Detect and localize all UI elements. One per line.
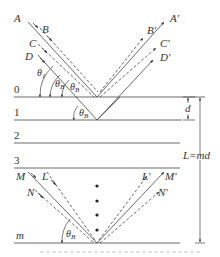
theta-B-label-1: θB <box>55 78 65 91</box>
incident-rays-bottom <box>28 172 97 243</box>
reflected-rays-bottom <box>97 172 164 243</box>
ray-L-label: L <box>41 170 48 182</box>
bragg-diffraction-diagram: 0 1 2 3 m A B C D A' B' C' D' θ1 θB θB θ… <box>0 0 220 257</box>
ray-N-prime-label: N' <box>157 186 168 198</box>
ray-A-label: A <box>13 12 21 24</box>
plane-3-label: 3 <box>14 154 20 166</box>
plane-1-label: 1 <box>14 106 20 118</box>
ray-C-prime-label: C' <box>160 37 170 49</box>
plane-0-label: 0 <box>14 83 20 95</box>
ray-M-prime-label: M' <box>164 170 177 182</box>
ray-N-label: N <box>26 186 35 198</box>
ray-L-prime-label: L' <box>141 170 151 182</box>
ellipsis-dots <box>95 184 98 231</box>
total-thickness-dimension <box>195 98 205 243</box>
theta-B-label-bottom: θB <box>66 228 76 241</box>
theta-1-label: θ1 <box>37 67 45 80</box>
ray-C-label: C <box>29 37 37 49</box>
refracted-ray <box>97 97 120 120</box>
ray-D-label: D <box>24 50 33 62</box>
ray-D-prime-label: D' <box>159 51 171 63</box>
reflected-rays-top <box>97 22 164 120</box>
ray-A-prime-label: A' <box>169 12 180 24</box>
plane-2-label: 2 <box>14 129 20 141</box>
plane-m-label: m <box>16 229 24 241</box>
spacing-label: d <box>185 102 191 114</box>
total-thickness-label: L=md <box>182 149 210 161</box>
ray-M-label: M <box>15 170 26 182</box>
ray-B-prime-label: B' <box>147 24 157 36</box>
ray-B-label: B <box>42 23 49 35</box>
